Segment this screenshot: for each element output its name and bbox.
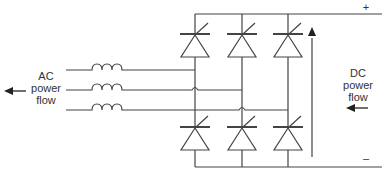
ac-phase-a [66,64,195,70]
dc-minus-terminal-label: – [360,152,372,164]
dc-voltage-arrow-icon [308,27,316,157]
ac-flow-arrow-icon [4,87,26,95]
ac-phase-c [66,104,288,110]
ac-power-flow-label: AC power flow [28,70,64,106]
dc-power-flow-label: DC power flow [338,67,378,103]
dc-plus-terminal-label: + [360,1,372,13]
dc-flow-arrow-icon [346,104,368,112]
ac-phase-b [66,84,242,90]
